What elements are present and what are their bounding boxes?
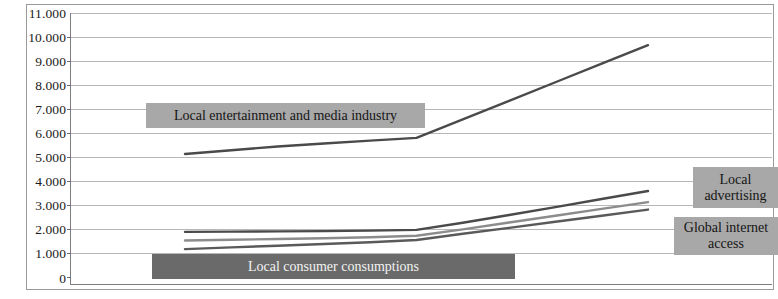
series-line-local-consumer-consumptions [185,202,648,240]
annotation-global-internet-access-line-2: access [708,236,744,252]
annotation-local-advertising-line-1: Local [720,172,752,188]
annotation-global-internet-access-line-1: Global internet [684,220,768,236]
annotation-local-consumer-consumptions: Local consumer consumptions [152,254,515,279]
annotation-local-advertising: Local advertising [693,167,778,208]
annotation-global-internet-access: Global internet access [674,217,778,255]
series-line-local-entertainment-and-media-industry [185,45,648,154]
chart-figure: 11.000 10.000 9.000 8.000 7.000 6.000 5.… [0,0,778,299]
annotation-local-entertainment-and-media-industry: Local entertainment and media industry [146,103,425,128]
annotation-local-advertising-line-2: advertising [704,188,766,204]
